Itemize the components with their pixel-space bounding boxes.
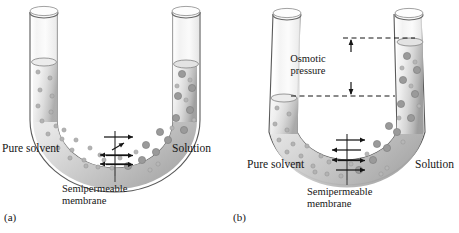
left-liquid-surface: [32, 58, 57, 66]
right-tube-rim-inner: [395, 8, 423, 17]
left-tube-rim-inner: [30, 6, 58, 15]
right-tube-rim-inner: [172, 6, 200, 15]
panel-b: Osmotic pressure Pure solvent Solution S…: [229, 0, 459, 233]
label-solution: Solution: [415, 158, 454, 170]
label-semipermeable-membrane: Semipermeable membrane: [307, 186, 372, 210]
flow-arrows: [100, 135, 133, 167]
arrow-up: [349, 39, 354, 45]
panel-b-sublabel: (b): [233, 212, 246, 224]
arrow-down: [349, 89, 354, 95]
label-solution: Solution: [172, 142, 211, 154]
right-liquid-surface: [174, 60, 199, 68]
label-semipermeable-membrane: Semipermeable membrane: [62, 183, 127, 207]
right-liquid-surface: [397, 38, 423, 46]
left-column-liquid: [271, 98, 298, 134]
right-tube-glass: [173, 14, 199, 64]
osmosis-figure: Pure solvent Solution Semipermeable memb…: [0, 0, 459, 233]
left-liquid-surface: [271, 94, 297, 102]
panel-a: Pure solvent Solution Semipermeable memb…: [0, 0, 230, 233]
label-pure-solvent: Pure solvent: [2, 142, 59, 154]
left-tube-glass: [31, 14, 57, 62]
label-osmotic-pressure: Osmotic pressure: [268, 53, 348, 77]
left-tube-rim-inner: [273, 8, 301, 17]
label-pure-solvent: Pure solvent: [247, 158, 304, 170]
panel-a-sublabel: (a): [4, 212, 16, 224]
